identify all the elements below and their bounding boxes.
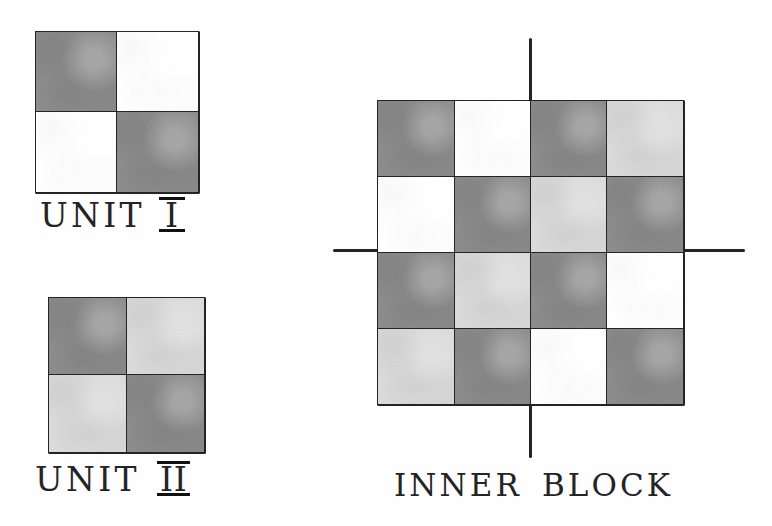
unit-2-cell-r1c2 — [126, 297, 205, 375]
unit-1-caption-numeral: I — [163, 196, 181, 235]
unit-1-cell-r1c1 — [35, 31, 117, 112]
inner-block-cell-r2c2 — [454, 176, 531, 253]
unit-1-caption: UNITI — [40, 196, 181, 235]
unit-2-cell-r1c1 — [48, 297, 127, 375]
inner-block-cell-r2c1 — [377, 176, 454, 253]
unit-1-figure — [36, 32, 198, 192]
unit-2-cell-r2c1 — [48, 374, 127, 452]
inner-block-cell-r4c2 — [454, 328, 531, 405]
unit-1-grid — [36, 32, 198, 192]
inner-block-cell-r3c4 — [606, 252, 683, 329]
inner-block-cell-r3c2 — [454, 252, 531, 329]
inner-block-cell-r4c1 — [377, 328, 454, 405]
inner-block-caption-word2: BLOCK — [542, 467, 673, 503]
inner-block-cell-r3c1 — [377, 252, 454, 329]
unit-2-caption-numeral: II — [158, 460, 189, 499]
inner-block-cell-r2c3 — [530, 176, 607, 253]
unit-1-cell-r2c1 — [35, 111, 117, 192]
inner-block-cell-r4c3 — [530, 328, 607, 405]
inner-block-caption: INNERBLOCK — [394, 467, 673, 503]
inner-block-cell-r1c3 — [530, 100, 607, 177]
inner-block-grid — [378, 101, 683, 404]
inner-block-cell-r1c1 — [377, 100, 454, 177]
inner-block-cell-r4c4 — [606, 328, 683, 405]
unit-2-grid — [49, 298, 204, 452]
inner-block-cell-r1c4 — [606, 100, 683, 177]
inner-block-caption-word1: INNER — [394, 467, 522, 503]
inner-block-cell-r2c4 — [606, 176, 683, 253]
unit-2-caption-word: UNIT — [35, 460, 140, 499]
unit-1-cell-r2c2 — [116, 111, 198, 192]
unit-2-cell-r2c2 — [126, 374, 205, 452]
inner-block-figure — [378, 101, 683, 404]
inner-block-cell-r3c3 — [530, 252, 607, 329]
unit-2-figure — [49, 298, 204, 452]
inner-block-cell-r1c2 — [454, 100, 531, 177]
unit-2-caption: UNITII — [35, 460, 189, 499]
unit-1-cell-r1c2 — [116, 31, 198, 112]
unit-1-caption-word: UNIT — [40, 196, 145, 235]
